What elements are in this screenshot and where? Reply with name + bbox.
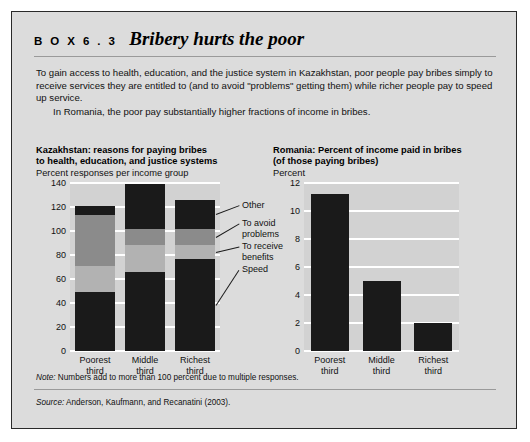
romania-ytick-label: 2 [276,318,300,328]
paragraph-2: In Romania, the poor pay substantially h… [36,106,496,119]
kazakhstan-segment-to-receive-benefits [175,245,215,258]
kazakhstan-segment-other [75,206,115,216]
kazakhstan-y-axis-label: Percent responses per income group [36,168,188,178]
box-body-text: To gain access to health, education, and… [36,67,496,118]
header-divider [34,56,496,57]
romania-ytick-label: 12 [276,178,300,188]
romania-ytick-label: 0 [276,346,300,356]
romania-plot-area [304,183,459,351]
romania-gridline [304,182,459,184]
romania-ytick-label: 8 [276,234,300,244]
kazakhstan-segment-other [175,200,215,229]
note-text: Numbers add to more than 100 percent due… [56,373,299,382]
kazakhstan-segment-speed [75,292,115,351]
kazakhstan-ytick-label: 0 [42,346,66,356]
kazakhstan-ytick-label: 120 [42,202,66,212]
kazakhstan-ytick-label: 20 [42,322,66,332]
romania-bar [363,281,401,351]
romania-bar [311,194,349,351]
kazakhstan-segment-to-avoid-problems [125,229,165,246]
chart-source: Source: Anderson, Kaufmann, and Recanati… [36,398,486,407]
box-container: B O X 6 . 3Bribery hurts the poor To gai… [11,11,517,429]
kazakhstan-bar [125,184,165,351]
kazakhstan-ytick-label: 60 [42,274,66,284]
kazakhstan-ytick-label: 100 [42,226,66,236]
kazakhstan-ytick-label: 140 [42,178,66,188]
romania-ytick-label: 10 [276,206,300,216]
box-header: B O X 6 . 3Bribery hurts the poor [34,28,494,52]
source-text: Anderson, Kaufmann, and Recanatini (2003… [64,398,230,407]
source-label: Source: [36,398,64,407]
kazakhstan-segment-to-avoid-problems [75,215,115,265]
kazakhstan-legend-label: To receivebenefits [242,241,300,262]
box-number-label: B O X 6 . 3 [34,35,117,47]
kazakhstan-plot-area [70,183,220,351]
kazakhstan-segment-to-avoid-problems [175,229,215,246]
kazakhstan-segment-speed [125,272,165,351]
kazakhstan-segment-to-receive-benefits [75,266,115,292]
romania-bar [414,323,452,351]
footer-divider [34,389,496,390]
kazakhstan-segment-speed [175,259,215,351]
kazakhstan-chart-title-line2: to health, education, and justice system… [36,156,251,167]
kazakhstan-ytick-label: 40 [42,298,66,308]
romania-y-axis-label: Percent [273,168,305,178]
romania-chart-title-line2: (of those paying bribes) [273,156,498,167]
romania-chart-title-line1: Romania: Percent of income paid in bribe… [273,145,498,156]
romania-ytick-label: 4 [276,290,300,300]
kazakhstan-bar [175,200,215,351]
chart-note: Note: Numbers add to more than 100 perce… [36,373,486,382]
romania-ytick-label: 6 [276,262,300,272]
box-title: Bribery hurts the poor [129,28,304,50]
note-label: Note: [36,373,56,382]
kazakhstan-segment-other [125,184,165,228]
kazakhstan-ytick-label: 80 [42,250,66,260]
kazakhstan-bar [75,206,115,351]
paragraph-1: To gain access to health, education, and… [36,67,496,105]
kazakhstan-chart-title-line1: Kazakhstan: reasons for paying bribes [36,145,251,156]
kazakhstan-segment-to-receive-benefits [125,245,165,271]
